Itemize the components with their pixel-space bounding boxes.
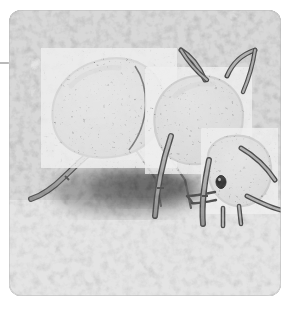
page-root: Grayscale illustration of an ant standin… xyxy=(0,0,290,310)
overlay-grain xyxy=(9,10,281,296)
ant-illustration xyxy=(9,10,281,296)
ant-photo: Grayscale illustration of an ant standin… xyxy=(9,10,281,296)
photo-alt-text: Grayscale illustration of an ant standin… xyxy=(9,10,10,11)
